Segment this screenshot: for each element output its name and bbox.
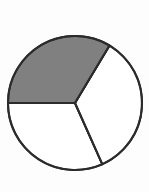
pie-chart-svg: [0, 0, 149, 192]
pie-chart-figure: [0, 0, 149, 192]
